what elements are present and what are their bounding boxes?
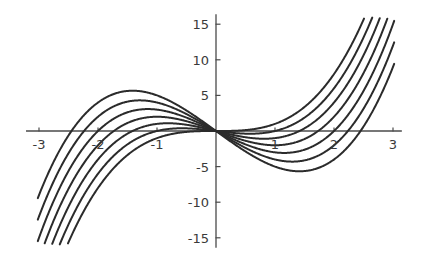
y-tick-label: -10 [188, 195, 209, 210]
x-tick-label: 3 [389, 137, 397, 152]
chart-canvas: -3-2-1123-15-10-551015 [0, 0, 422, 259]
x-tick-label: -3 [33, 137, 46, 152]
y-tick-label: 10 [192, 53, 209, 68]
x-tick-label: 2 [330, 137, 338, 152]
y-tick-label: -5 [196, 160, 209, 175]
cubic-family-plot: -3-2-1123-15-10-551015 [0, 0, 422, 259]
x-tick-label: 1 [271, 137, 279, 152]
x-tick-label: -2 [92, 137, 105, 152]
y-tick-label: 15 [192, 17, 209, 32]
y-tick-label: 5 [201, 88, 209, 103]
x-tick-label: -1 [151, 137, 164, 152]
y-tick-label: -15 [188, 231, 209, 246]
